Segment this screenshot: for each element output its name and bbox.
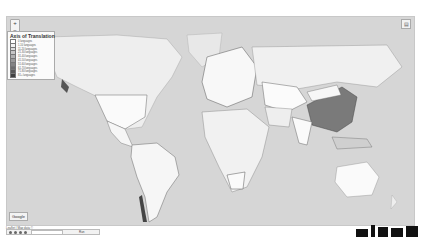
south-america <box>131 143 179 222</box>
legend-item: 71-80 languages <box>10 70 52 73</box>
toolbar-input[interactable] <box>31 230 63 235</box>
legend-label: 81+ languages <box>18 74 35 77</box>
legend-item: 1-10 languages <box>10 44 52 47</box>
run-button[interactable]: Run <box>79 230 85 234</box>
legend-label: 1-10 languages <box>18 44 36 47</box>
australia <box>335 162 379 197</box>
legend-swatch <box>10 73 16 78</box>
legend-label: 31-40 languages <box>18 55 37 58</box>
russia <box>252 45 402 89</box>
middle-east <box>265 107 292 127</box>
bottom-toolbar: Run <box>6 229 100 235</box>
world-map[interactable] <box>7 17 414 225</box>
layers-button[interactable]: ▤ <box>401 19 411 29</box>
new-zealand <box>391 195 397 209</box>
map-frame[interactable]: + − Axis of Translation 0 languages1-10 … <box>6 16 415 226</box>
legend-item: 81+ languages <box>10 74 52 77</box>
legend-item: 41-50 languages <box>10 59 52 62</box>
layers-icon: ▤ <box>404 21 409 27</box>
legend-item: 0 languages <box>10 40 52 43</box>
legend-title: Axis of Translation <box>10 33 52 39</box>
next-button[interactable] <box>24 231 27 234</box>
legend: Axis of Translation 0 languages1-10 lang… <box>7 31 55 80</box>
southeast-asia <box>332 137 372 149</box>
legend-item: 31-40 languages <box>10 55 52 58</box>
legend-label: 71-80 languages <box>18 70 37 73</box>
country-india <box>292 117 312 145</box>
legend-label: 0 languages <box>18 40 32 43</box>
legend-item: 51-60 languages <box>10 63 52 66</box>
zoom-in-button[interactable]: + <box>11 20 19 27</box>
prev-button[interactable] <box>14 231 17 234</box>
legend-label: 21-30 languages <box>18 51 37 54</box>
google-logo[interactable]: Google <box>9 212 28 221</box>
play-button[interactable] <box>19 231 22 234</box>
first-button[interactable] <box>9 231 12 234</box>
corner-logo-bars <box>356 225 418 237</box>
map-attribution: · · · <box>406 209 410 212</box>
legend-label: 41-50 languages <box>18 59 37 62</box>
legend-label: 51-60 languages <box>18 63 37 66</box>
europe <box>202 47 257 107</box>
